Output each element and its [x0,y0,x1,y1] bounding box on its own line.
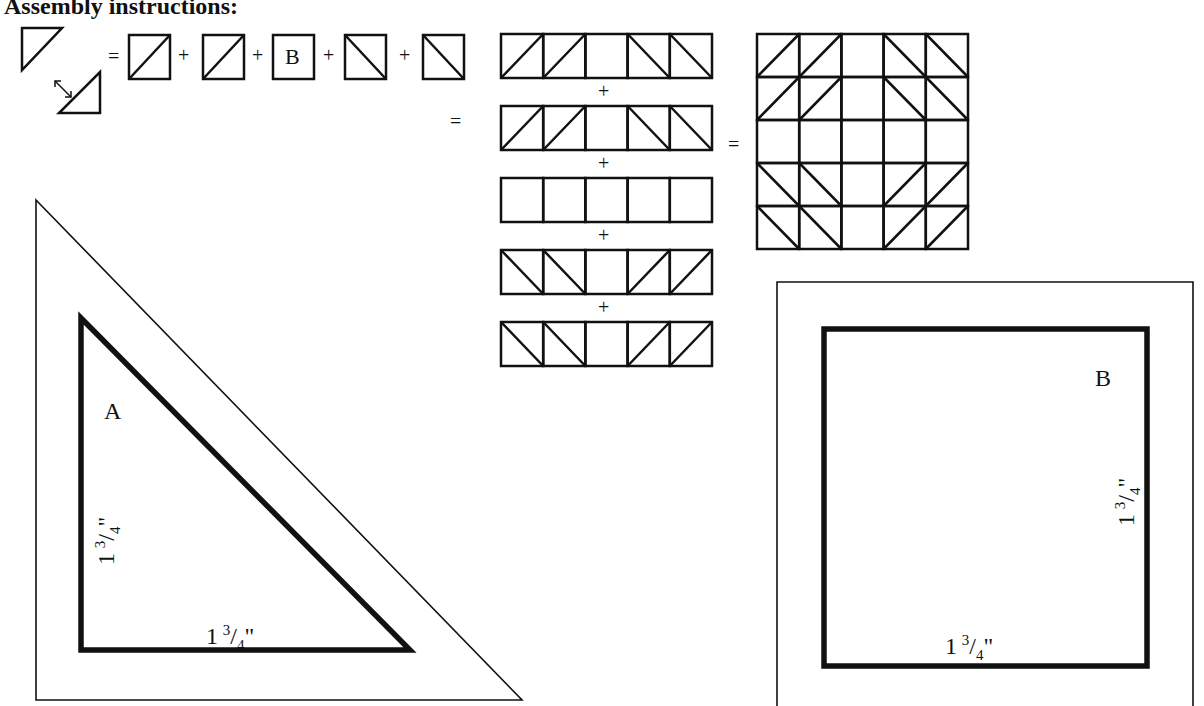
hst-square-ur-icon [203,35,244,79]
row-strip [501,250,712,294]
hst-square-dr-icon [423,35,464,79]
template-a-vertical-dimension: 1 3/4" [92,517,124,565]
formula-equals: = [108,45,119,68]
formula-plus: + [178,44,189,67]
row-plus: + [598,224,609,247]
hst-square-dr-icon [345,35,386,79]
formula-plus: + [252,44,263,67]
swap-arrow-icon [55,81,71,97]
template-a [36,200,522,700]
template-a-sewing-line [81,318,410,650]
row-strip [501,106,712,150]
template-a-cutting-line [36,200,522,700]
triangle-lower-right-icon [59,72,100,113]
row-plus: + [598,296,609,319]
rows-equals: = [450,110,461,133]
template-a-label: A [104,398,121,425]
row-strip [501,178,712,222]
formula-plus: + [323,44,334,67]
formula-plus: + [399,44,410,67]
block-equals: = [728,133,739,156]
formula-triangles [22,28,100,113]
finished-block [757,34,968,249]
template-b-label: B [1095,365,1111,392]
row-strip [501,322,712,366]
hst-square-ur-icon [129,35,170,79]
template-b-horizontal-dimension: 1 3/4" [945,632,993,664]
row-strip [501,34,712,78]
row-plus: + [598,80,609,103]
template-a-horizontal-dimension: 1 3/4" [206,622,254,654]
diagram-canvas [0,0,1204,706]
triangle-upper-left-icon [22,28,62,70]
row-plus: + [598,152,609,175]
center-square-label: B [285,44,300,70]
template-b-vertical-dimension: 1 3/4" [1112,478,1144,526]
